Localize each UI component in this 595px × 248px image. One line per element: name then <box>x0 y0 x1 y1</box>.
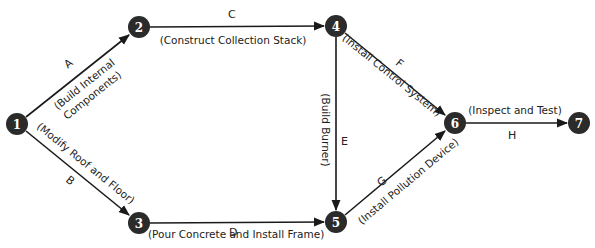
edge-b-arrow <box>26 131 129 215</box>
node-2: 2 <box>128 16 150 38</box>
edge-c-arrow <box>150 26 324 27</box>
edge-c-letter: C <box>228 9 236 21</box>
node-7: 7 <box>568 112 590 134</box>
node-1: 1 <box>6 113 28 135</box>
edge-g-arrow <box>345 131 445 215</box>
node-3: 3 <box>128 212 150 234</box>
svg-text:4: 4 <box>332 20 340 34</box>
edge-h-letter: H <box>508 130 516 142</box>
svg-text:2: 2 <box>135 21 143 35</box>
node-5: 5 <box>325 211 347 233</box>
svg-text:5: 5 <box>332 216 340 230</box>
svg-text:1: 1 <box>13 118 21 132</box>
svg-text:3: 3 <box>135 217 143 231</box>
node-6: 6 <box>444 112 466 134</box>
edge-d-arrow <box>150 222 324 223</box>
edge-d-letter: D <box>229 227 237 239</box>
svg-text:6: 6 <box>451 117 459 131</box>
network-diagram: 1 2 3 4 5 6 7 A (Build Internal Componen… <box>0 0 595 248</box>
edge-e-activity: (Build Burner) <box>320 80 332 180</box>
edge-c-activity: (Construct Collection Stack) <box>158 34 308 46</box>
svg-text:7: 7 <box>575 117 583 131</box>
edge-e-letter: E <box>341 136 348 148</box>
edge-h-activity: (Inspect and Test) <box>465 104 565 116</box>
